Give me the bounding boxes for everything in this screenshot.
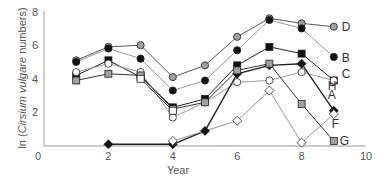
data-point-G bbox=[202, 99, 209, 106]
series-label-G: G bbox=[340, 134, 349, 148]
data-point-D bbox=[234, 33, 241, 40]
data-point-H bbox=[266, 77, 273, 84]
data-point-D bbox=[137, 42, 144, 49]
data-point-G bbox=[73, 77, 80, 84]
data-point-B bbox=[169, 87, 176, 94]
data-point-E bbox=[137, 75, 144, 82]
data-point-A bbox=[104, 140, 113, 149]
data-point-B bbox=[234, 47, 241, 54]
y-axis-title-species: Cirsium vulgare bbox=[16, 57, 28, 133]
series-label-D: D bbox=[342, 20, 351, 34]
data-point-D bbox=[201, 62, 208, 69]
y-tick-label: 6 bbox=[32, 39, 38, 51]
series-label-C: C bbox=[342, 67, 351, 81]
data-point-H bbox=[298, 68, 305, 75]
x-tick-label: 2 bbox=[105, 150, 111, 162]
data-point-A bbox=[297, 59, 306, 68]
data-point-H bbox=[169, 114, 176, 121]
y-axis-title-prefix: ln ( bbox=[16, 133, 28, 149]
data-point-B bbox=[298, 25, 305, 32]
data-point-D bbox=[330, 23, 337, 30]
data-point-B bbox=[330, 53, 337, 60]
series-label-F: F bbox=[332, 117, 339, 131]
data-point-G bbox=[298, 101, 305, 108]
data-point-B bbox=[266, 16, 273, 23]
series-line-E bbox=[141, 79, 173, 111]
series-line-H bbox=[76, 64, 334, 118]
data-point-B bbox=[137, 55, 144, 62]
data-point-G bbox=[234, 67, 241, 74]
x-tick-label: 8 bbox=[299, 150, 305, 162]
data-point-B bbox=[73, 58, 80, 65]
data-point-E bbox=[169, 107, 176, 114]
series-labels: DBCHAFG bbox=[328, 20, 351, 148]
x-tick-label: 10 bbox=[360, 150, 372, 162]
data-point-H bbox=[234, 79, 241, 86]
data-point-C bbox=[266, 43, 273, 50]
x-axis-title: Year bbox=[167, 164, 190, 176]
y-tick-label: 4 bbox=[32, 73, 38, 85]
data-point-B bbox=[105, 45, 112, 52]
x-tick-label: 6 bbox=[234, 150, 240, 162]
series-label-B: B bbox=[342, 51, 350, 65]
data-point-H bbox=[73, 68, 80, 75]
x-tick-label: 4 bbox=[170, 150, 176, 162]
data-point-A bbox=[201, 126, 210, 135]
x-tick-labels: 0246810 bbox=[35, 150, 372, 162]
y-tick-label: 8 bbox=[32, 6, 38, 18]
data-point-G bbox=[105, 70, 112, 77]
y-tick-label: 2 bbox=[32, 106, 38, 118]
data-point-G bbox=[330, 137, 337, 144]
data-point-G bbox=[266, 60, 273, 67]
data-point-B bbox=[201, 77, 208, 84]
line-chart: 0246810 2468 Year ln (Cirsium vulgare nu… bbox=[0, 0, 386, 179]
y-axis-title-suffix: numbers) bbox=[16, 7, 28, 57]
data-point-C bbox=[298, 50, 305, 57]
y-tick-labels: 2468 bbox=[32, 6, 38, 119]
y-axis-title: ln (Cirsium vulgare numbers) bbox=[16, 7, 28, 148]
x-tick-label: 0 bbox=[35, 150, 41, 162]
data-point-H bbox=[105, 60, 112, 67]
series-label-A: A bbox=[328, 88, 336, 102]
data-point-D bbox=[169, 74, 176, 81]
series-markers bbox=[73, 15, 339, 149]
